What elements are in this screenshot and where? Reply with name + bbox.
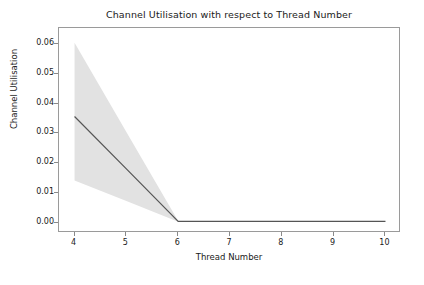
confidence-band (75, 43, 386, 222)
x-axis-label: Thread Number (58, 252, 400, 262)
y-tick-label: 0.04 (22, 99, 54, 107)
x-tick-mark (229, 232, 230, 236)
y-axis-label-container: Channel Utilisation (0, 0, 20, 285)
x-tick-mark (125, 232, 126, 236)
y-tick-label: 0.02 (22, 158, 54, 166)
x-tick-label: 5 (113, 238, 137, 247)
x-tick-mark (74, 232, 75, 236)
chart-figure: Channel Utilisation with respect to Thre… (0, 0, 424, 285)
y-tick-mark (54, 73, 58, 74)
y-tick-label: 0.05 (22, 69, 54, 77)
y-tick-mark (54, 192, 58, 193)
y-tick-mark (54, 43, 58, 44)
y-tick-mark (54, 103, 58, 104)
x-tick-label: 9 (321, 238, 345, 247)
x-tick-label: 6 (165, 238, 189, 247)
y-axis-tick-labels: 0.000.010.020.030.040.050.06 (18, 0, 54, 285)
y-tick-label: 0.03 (22, 128, 54, 136)
y-tick-label: 0.00 (22, 218, 54, 226)
chart-title: Channel Utilisation with respect to Thre… (58, 9, 400, 20)
y-tick-mark (54, 222, 58, 223)
x-tick-label: 4 (62, 238, 86, 247)
x-tick-label: 8 (269, 238, 293, 247)
x-tick-label: 7 (217, 238, 241, 247)
y-tick-mark (54, 132, 58, 133)
y-tick-label: 0.06 (22, 39, 54, 47)
x-tick-mark (384, 232, 385, 236)
x-tick-label: 10 (372, 238, 396, 247)
y-tick-label: 0.01 (22, 188, 54, 196)
x-tick-mark (333, 232, 334, 236)
y-tick-mark (54, 162, 58, 163)
x-tick-mark (281, 232, 282, 236)
plot-area (58, 27, 400, 232)
x-tick-mark (177, 232, 178, 236)
plot-svg (59, 28, 400, 232)
